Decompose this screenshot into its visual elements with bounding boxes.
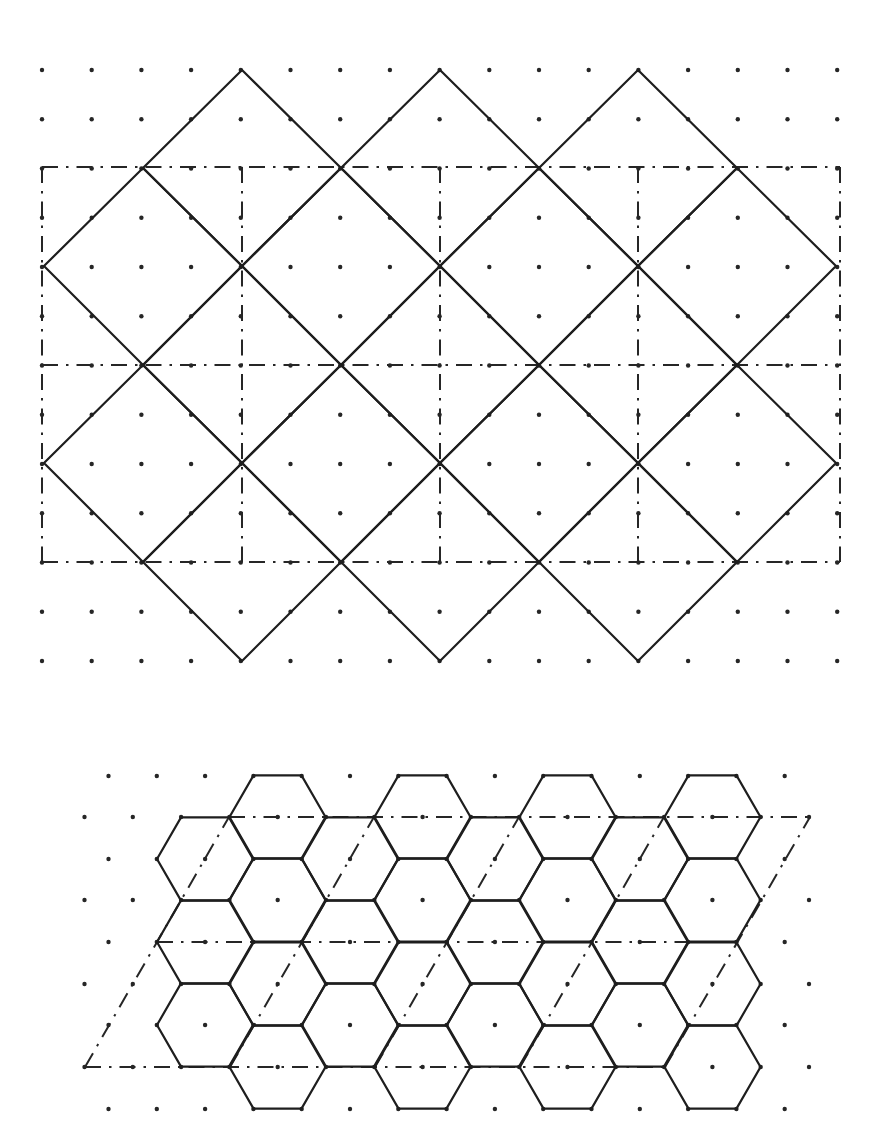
lattice-dot [736, 265, 740, 269]
lattice-dot [783, 940, 787, 944]
lattice-dot [338, 68, 342, 72]
lattice-dot [493, 774, 497, 778]
lattice-dot [587, 166, 591, 170]
lattice-dot [710, 1065, 714, 1069]
lattice-dot [686, 659, 690, 663]
lattice-dot [139, 216, 143, 220]
lattice-dot [807, 982, 811, 986]
lattice-dot [189, 659, 193, 663]
lattice-dot [388, 68, 392, 72]
lattice-dot [537, 265, 541, 269]
lattice-dot [338, 413, 342, 417]
lattice-dot [587, 462, 591, 466]
lattice-dot [736, 413, 740, 417]
lattice-dot [155, 1107, 159, 1111]
lattice-dot [90, 462, 94, 466]
lattice-dot [40, 68, 44, 72]
lattice-dot [807, 1065, 811, 1069]
lattice-dot [388, 462, 392, 466]
lattice-dot [783, 1107, 787, 1111]
lattice-dot [736, 117, 740, 121]
lattice-dot [835, 659, 839, 663]
lattice-dot [276, 1065, 280, 1069]
lattice-dot [686, 68, 690, 72]
lattice-dot [239, 117, 243, 121]
lattice-dot [348, 1107, 352, 1111]
lattice-dot [139, 462, 143, 466]
lattice-dot [537, 314, 541, 318]
lattice-dot [537, 610, 541, 614]
lattice-dot [189, 68, 193, 72]
lattice-dot [785, 117, 789, 121]
lattice-dot [90, 659, 94, 663]
lattice-dot [783, 1023, 787, 1027]
lattice-dot [537, 117, 541, 121]
lattice-dot [785, 462, 789, 466]
lattice-tiling-diagram [0, 0, 869, 1140]
lattice-dot [338, 216, 342, 220]
lattice-dot [139, 68, 143, 72]
lattice-dot [785, 560, 789, 564]
lattice-dot [139, 265, 143, 269]
lattice-dot [288, 659, 292, 663]
lattice-dot [106, 1107, 110, 1111]
lattice-dot [90, 610, 94, 614]
lattice-dot [835, 413, 839, 417]
lattice-dot [288, 68, 292, 72]
lattice-dot [493, 1107, 497, 1111]
lattice-dot [139, 117, 143, 121]
lattice-dot [537, 659, 541, 663]
lattice-dot [106, 857, 110, 861]
lattice-dot [420, 815, 424, 819]
lattice-dot [338, 117, 342, 121]
lattice-dot [785, 610, 789, 614]
lattice-dot [835, 610, 839, 614]
lattice-dot [835, 117, 839, 121]
lattice-dot [338, 511, 342, 515]
lattice-dot [139, 511, 143, 515]
lattice-dot [736, 462, 740, 466]
lattice-dot [686, 462, 690, 466]
lattice-dot [338, 610, 342, 614]
lattice-dot [785, 659, 789, 663]
lattice-dot [338, 462, 342, 466]
lattice-dot [638, 1107, 642, 1111]
lattice-dot [155, 774, 159, 778]
lattice-dot [686, 265, 690, 269]
lattice-dot [40, 659, 44, 663]
lattice-dot [835, 511, 839, 515]
lattice-dot [288, 462, 292, 466]
lattice-dot [90, 265, 94, 269]
lattice-dot [40, 117, 44, 121]
lattice-dot [785, 363, 789, 367]
lattice-dot [203, 774, 207, 778]
lattice-dot [537, 68, 541, 72]
lattice-dot [736, 314, 740, 318]
lattice-dot [587, 265, 591, 269]
lattice-dot [276, 898, 280, 902]
lattice-dot [835, 68, 839, 72]
lattice-dot [487, 68, 491, 72]
lattice-dot [90, 117, 94, 121]
lattice-dot [338, 659, 342, 663]
lattice-dot [487, 462, 491, 466]
lattice-dot [537, 216, 541, 220]
lattice-dot [420, 898, 424, 902]
lattice-dot [106, 940, 110, 944]
lattice-dot [82, 982, 86, 986]
lattice-dot [288, 265, 292, 269]
lattice-dot [189, 462, 193, 466]
lattice-dot [437, 117, 441, 121]
lattice-dot [785, 166, 789, 170]
lattice-dot [388, 265, 392, 269]
lattice-dot [487, 265, 491, 269]
lattice-dot [636, 117, 640, 121]
lattice-dot [348, 1023, 352, 1027]
lattice-dot [139, 413, 143, 417]
lattice-dot [493, 1023, 497, 1027]
lattice-dot [783, 774, 787, 778]
lattice-dot [638, 1023, 642, 1027]
lattice-dot [82, 898, 86, 902]
lattice-dot [565, 898, 569, 902]
lattice-dot [736, 659, 740, 663]
